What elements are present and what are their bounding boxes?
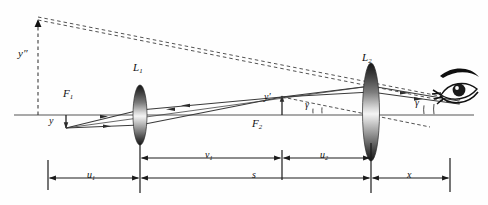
label-angle-left: γ: [305, 100, 309, 110]
label-object-height: y: [49, 116, 53, 126]
label-focus-2: F2: [252, 118, 262, 129]
label-focus-1: F1: [63, 88, 73, 99]
label-lens-2: L2: [362, 52, 372, 63]
label-angle-right: γ: [415, 98, 419, 108]
dimension-label-u2: u2: [320, 150, 328, 160]
dimension-label-x: x: [407, 170, 411, 180]
label-final-image-height: y″: [18, 48, 27, 59]
angle-arc-right: [424, 104, 434, 114]
dimension-label-v1: v1: [205, 150, 213, 160]
lens-1: [133, 85, 147, 145]
dimension-label-s: s: [252, 170, 256, 180]
angle-arc-left: [313, 107, 322, 113]
dimension-label-u1: u1: [87, 170, 95, 180]
dimension-ticks: [48, 143, 450, 193]
optical-ray-diagram: y″ F1 y L1 L2 y′ F2 γ γ u1 v1 u2 s x: [0, 0, 488, 205]
rays-long-axis-crossing: [66, 86, 371, 128]
virtual-image-projection: [38, 17, 460, 104]
label-lens-1: L1: [133, 62, 143, 73]
eye-icon: [432, 69, 479, 104]
label-intermediate-image-height: y′: [264, 92, 271, 102]
